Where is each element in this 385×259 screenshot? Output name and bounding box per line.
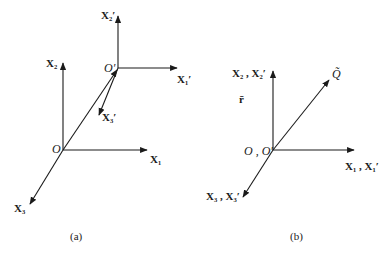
coordinate-diagram: X₂ X₁ X₃ O X₂′ X₁′ X₃′ O′ (a) X₂ , X₂′ X… [0,0,385,259]
label-x3-prime: X₃′ [102,111,116,123]
axis-x3 [30,150,63,204]
caption-b: (b) [290,230,303,243]
label-x1: X₁ [150,153,161,165]
caption-a: (a) [70,230,83,243]
label-x2-prime: X₂′ [101,9,115,21]
label-x1-prime: X₁′ [177,73,191,85]
label-origin: O [52,142,61,156]
label-x3-x3prime: X₃ , X₃′ [206,190,240,202]
label-x2-x2prime: X₂ , X₂′ [232,67,266,79]
label-point-q: Q̃ [332,67,341,81]
displacement-vector [63,70,117,150]
label-origin-prime: O′ [104,61,116,75]
panel-a: X₂ X₁ X₃ O X₂′ X₁′ X₃′ O′ (a) [14,9,191,243]
label-x2: X₂ [46,57,58,69]
label-r-vector: r̄ [239,93,244,105]
label-x1-x1prime: X₁ , X₁′ [345,160,379,172]
label-x3: X₃ [14,202,26,214]
label-origin: O , O′ [244,144,273,158]
panel-b: X₂ , X₂′ X₁ , X₁′ X₃ , X₃′ O , O′ r̄ Q̃ … [206,67,379,243]
position-vector-r [273,80,329,150]
